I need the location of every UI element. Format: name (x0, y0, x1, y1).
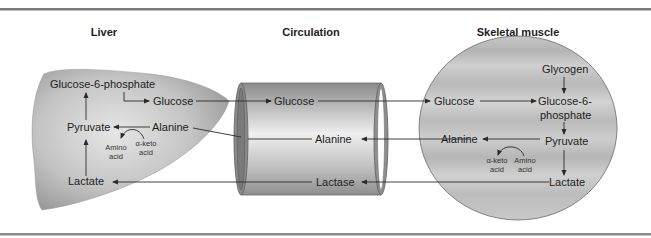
muscle-glucose-label: Glucose (434, 95, 474, 107)
muscle-amino-acid-label-2: acid (518, 165, 532, 174)
muscle-lactate-label: Lactate (549, 176, 585, 188)
liver-glucose-label: Glucose (153, 95, 193, 107)
liver-keto-acid-label-2: acid (139, 148, 153, 157)
header-liver: Liver (91, 26, 118, 38)
circ-glucose-label: Glucose (274, 95, 314, 107)
muscle-keto-acid-label: α-keto (486, 156, 507, 165)
muscle-pyruvate-label: Pyruvate (545, 135, 588, 147)
circ-lactase-label: Lactase (316, 176, 355, 188)
circ-alanine-label: Alanine (315, 133, 352, 145)
top-rule (0, 8, 651, 11)
muscle-g6p-label-2: phosphate (540, 109, 591, 121)
liver-alanine-label: Alanine (152, 121, 189, 133)
muscle-glycogen-label: Glycogen (542, 63, 588, 75)
bottom-rule (0, 233, 651, 236)
glucose-alanine-cycle-diagram: Liver Circulation Skeletal muscle Glucos… (0, 0, 651, 238)
liver-g6p-label: Glucose-6-phosphate (50, 78, 155, 90)
liver-pyruvate-label: Pyruvate (67, 121, 110, 133)
liver-keto-acid-label: α-keto (135, 139, 156, 148)
muscle-amino-acid-label: Amino (514, 156, 535, 165)
header-circulation: Circulation (282, 26, 340, 38)
muscle-g6p-label: Glucose-6- (538, 95, 592, 107)
liver-shape (32, 69, 229, 210)
liver-amino-acid-label-2: acid (109, 152, 123, 161)
muscle-keto-acid-label-2: acid (490, 165, 504, 174)
liver-lactate-label: Lactate (68, 175, 104, 187)
liver-amino-acid-label: Amino (105, 143, 126, 152)
muscle-alanine-label: Alanine (441, 133, 478, 145)
